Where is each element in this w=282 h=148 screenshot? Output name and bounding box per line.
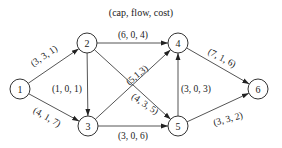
edge-label-4-6: (7, 1, 6) — [206, 47, 238, 71]
node-2: 2 — [77, 33, 97, 53]
edge-labels-layer: (3, 3, 1)(4, 1, 7)(6, 0, 4)(1, 0, 1)(4, … — [29, 30, 244, 142]
node-label: 6 — [256, 84, 261, 95]
node-label: 2 — [85, 38, 90, 49]
flow-network-diagram: (cap, flow, cost) (3, 3, 1)(4, 1, 7)(6, … — [0, 0, 282, 148]
edge-label-1-3: (4, 1, 7) — [31, 105, 63, 130]
node-label: 4 — [176, 38, 181, 49]
diagram-title: (cap, flow, cost) — [109, 7, 173, 19]
node-4: 4 — [168, 33, 188, 53]
node-3: 3 — [78, 116, 98, 136]
edge-label-1-2: (3, 3, 1) — [29, 43, 60, 69]
edge-label-3-4: (5,1,3) — [124, 63, 150, 88]
edge-label-5-6: (3, 3, 2) — [212, 110, 244, 128]
edge-2-3 — [87, 53, 88, 116]
edge-label-2-3: (1, 0, 1) — [52, 84, 82, 95]
node-label: 3 — [86, 121, 91, 132]
node-label: 5 — [176, 121, 181, 132]
node-5: 5 — [168, 116, 188, 136]
node-1: 1 — [10, 79, 30, 99]
edge-label-3-5: (3, 0, 6) — [118, 131, 148, 142]
edge-label-2-4: (6, 0, 4) — [118, 30, 148, 41]
node-6: 6 — [248, 79, 268, 99]
edge-label-5-4: (3, 0, 3) — [181, 84, 211, 95]
node-label: 1 — [18, 84, 23, 95]
